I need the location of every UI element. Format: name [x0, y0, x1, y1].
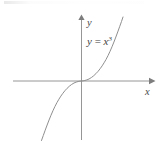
equation-operator: =	[92, 35, 104, 47]
x-axis-label: x	[144, 86, 150, 97]
graph-canvas: x y y = x3	[0, 0, 163, 148]
equation-annotation: y = x3	[86, 35, 113, 47]
cubic-function-figure: x y y = x3	[0, 0, 163, 148]
equation-exponent: 3	[108, 35, 113, 43]
x-axis-arrow-icon	[149, 78, 156, 84]
y-axis-arrow-icon	[78, 15, 84, 21]
svg-text:y = x3: y = x3	[86, 35, 113, 47]
y-axis-label: y	[86, 17, 92, 28]
